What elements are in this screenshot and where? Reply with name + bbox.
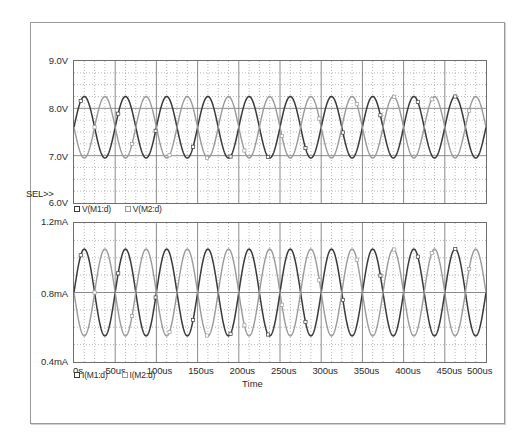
trace-marker: [192, 145, 195, 148]
trace-marker: [117, 112, 120, 115]
trace-marker: [168, 330, 171, 333]
bottom-plot-ytick-2: 0.4mA: [24, 356, 68, 367]
trace-marker: [229, 155, 232, 158]
trace-marker: [266, 155, 269, 158]
legend-item-v-m1[interactable]: V(M1:d): [74, 204, 111, 214]
trace-marker: [280, 134, 283, 137]
trace-marker: [168, 154, 171, 157]
trace-marker: [266, 333, 269, 336]
x-axis-title: Time: [0, 378, 529, 389]
square-outline-icon: [74, 206, 80, 212]
trace-marker: [243, 324, 246, 327]
voltage-plot-canvas: [74, 61, 486, 203]
legend-label-v-m2: V(M2:d): [133, 204, 162, 214]
trace-marker: [130, 142, 133, 145]
trace-marker: [79, 99, 82, 102]
trace-marker: [229, 332, 232, 335]
trace-marker: [79, 254, 82, 257]
x-axis-tick-3: 150us: [188, 365, 213, 376]
trace-marker: [454, 247, 457, 250]
trace-marker: [379, 114, 382, 117]
trace-marker: [393, 95, 396, 98]
x-axis-tick-10: 500us: [467, 365, 492, 376]
trace-marker: [393, 248, 396, 251]
bottom-plot-ytick-1: 0.8mA: [24, 288, 68, 299]
x-axis-tick-7: 350us: [354, 365, 379, 376]
trace-marker: [130, 314, 133, 317]
x-axis-tick-6: 300us: [312, 365, 337, 376]
trace-marker: [430, 251, 433, 254]
trace-marker: [454, 95, 457, 98]
x-axis-tick-8: 400us: [395, 365, 420, 376]
x-axis-tick-9: 450us: [437, 365, 462, 376]
trace-marker: [304, 146, 307, 149]
x-axis-title-text: Time: [242, 378, 263, 389]
trace-marker: [416, 255, 419, 258]
trace-marker: [355, 102, 358, 105]
trace-marker: [468, 109, 471, 112]
trace-marker: [416, 100, 419, 103]
trace-marker: [430, 98, 433, 101]
trace-marker: [205, 156, 208, 159]
voltage-plot-pane[interactable]: [73, 60, 487, 204]
trace-marker: [117, 272, 120, 275]
trace-marker: [341, 298, 344, 301]
square-outline-icon: [125, 206, 131, 212]
trace-marker: [205, 334, 208, 337]
legend-label-v-m1: V(M1:d): [82, 204, 111, 214]
current-plot-pane[interactable]: [73, 222, 487, 363]
trace-marker: [318, 279, 321, 282]
bottom-plot-ytick-0: 1.2mA: [24, 216, 68, 227]
trace-marker: [192, 318, 195, 321]
trace-marker: [468, 267, 471, 270]
x-axis-tick-5: 250us: [271, 365, 296, 376]
trace-marker: [93, 126, 96, 129]
x-axis-tick-4: 200us: [230, 365, 255, 376]
top-plot-ytick-0: 9.0V: [24, 55, 68, 66]
current-plot-canvas: [74, 223, 486, 362]
trace-marker: [379, 274, 382, 277]
trace-marker: [93, 291, 96, 294]
top-plot-ytick-2: 7.0V: [24, 151, 68, 162]
trace-marker: [280, 303, 283, 306]
probe-waveform-window: 9.0V 8.0V 7.0V 6.0V SEL>> V(M1:d) V(M2:d…: [0, 0, 529, 447]
voltage-plot-legend: V(M1:d) V(M2:d): [74, 204, 176, 214]
trace-marker: [318, 117, 321, 120]
selected-pane-marker[interactable]: SEL>>: [26, 188, 54, 199]
legend-item-v-m2[interactable]: V(M2:d): [125, 204, 162, 214]
trace-marker: [243, 149, 246, 152]
trace-marker: [304, 320, 307, 323]
trace-marker: [341, 131, 344, 134]
trace-marker: [355, 258, 358, 261]
top-plot-ytick-1: 8.0V: [24, 103, 68, 114]
